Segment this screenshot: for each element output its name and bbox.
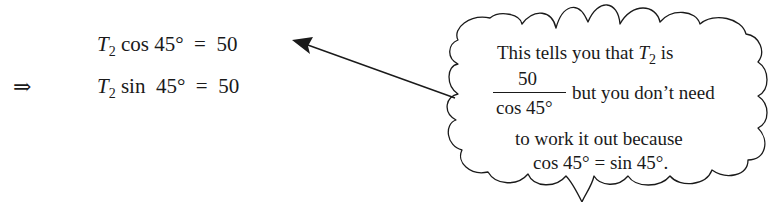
- callout-line-4: cos 45° = sin 45°.: [533, 153, 668, 172]
- fraction-numerator: 50: [518, 69, 537, 88]
- callout-line-3: to work it out because: [515, 129, 683, 148]
- callout-line-2: but you don’t need: [572, 83, 715, 102]
- variable-t: T: [638, 42, 649, 63]
- fraction-bar: [493, 92, 566, 93]
- pointer-arrow-line: [305, 44, 455, 98]
- callout-text: This tells you that: [497, 42, 638, 63]
- callout-text: is: [656, 42, 673, 63]
- subscript: 2: [649, 52, 656, 67]
- fraction-denominator: cos 45°: [496, 98, 553, 117]
- callout-line-1: This tells you that T2 is: [497, 43, 673, 62]
